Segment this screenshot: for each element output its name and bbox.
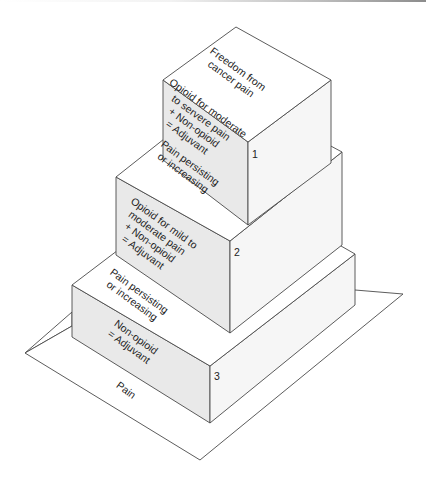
step-1-number: 1 — [252, 148, 258, 160]
step-3-number: 3 — [214, 370, 220, 382]
analgesic-ladder-diagram: Freedom from cancer pain Opioid for mode… — [0, 0, 426, 483]
step-2-number: 2 — [234, 246, 240, 258]
